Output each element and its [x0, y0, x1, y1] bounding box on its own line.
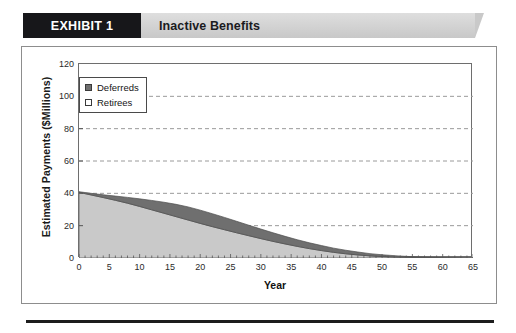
legend-swatch-icon	[85, 99, 92, 106]
x-axis-tick-label: 55	[407, 262, 417, 272]
chart-legend: DeferredsRetirees	[79, 77, 147, 113]
y-axis-tick-label: 0	[69, 253, 74, 263]
exhibit-title-bar: Inactive Benefits	[141, 13, 475, 38]
x-axis-tick-label: 25	[226, 262, 236, 272]
x-axis-tick-label: 5	[107, 262, 112, 272]
x-axis-tick-label: 40	[316, 262, 326, 272]
x-axis-tick-label: 0	[76, 262, 81, 272]
y-axis-tick-label: 80	[64, 124, 74, 134]
x-axis-tick-label: 45	[347, 262, 357, 272]
legend-item-label: Retirees	[97, 97, 132, 108]
area-chart: Estimated Payments ($Millions) 020406080…	[22, 47, 498, 305]
x-axis-title: Year	[78, 279, 472, 291]
exhibit-tab-label: EXHIBIT 1	[51, 19, 113, 33]
legend-item: Deferreds	[85, 82, 139, 93]
x-axis-tick-label: 35	[286, 262, 296, 272]
chart-card: Estimated Payments ($Millions) 020406080…	[21, 46, 497, 304]
x-axis-tick-label: 65	[468, 262, 478, 272]
y-axis-tick-label: 100	[59, 91, 74, 101]
x-axis-tick-label: 15	[165, 262, 175, 272]
x-axis-tick-label: 50	[377, 262, 387, 272]
bottom-rule	[26, 320, 494, 323]
y-axis-title: Estimated Payments ($Millions)	[40, 57, 52, 257]
x-axis-tick-label: 60	[438, 262, 448, 272]
legend-item-label: Deferreds	[97, 82, 139, 93]
x-axis-tick-label: 10	[135, 262, 145, 272]
legend-swatch-icon	[85, 84, 92, 91]
y-axis-tick-label: 120	[59, 59, 74, 69]
y-axis-tick-label: 40	[64, 188, 74, 198]
exhibit-tab: EXHIBIT 1	[23, 13, 141, 38]
exhibit-title: Inactive Benefits	[141, 19, 260, 33]
x-axis-tick-label: 30	[256, 262, 266, 272]
y-axis-tick-label: 20	[64, 221, 74, 231]
y-axis-tick-label: 60	[64, 156, 74, 166]
exhibit-banner: EXHIBIT 1 Inactive Benefits	[23, 13, 475, 38]
x-axis-tick-label: 20	[195, 262, 205, 272]
legend-item: Retirees	[85, 97, 139, 108]
